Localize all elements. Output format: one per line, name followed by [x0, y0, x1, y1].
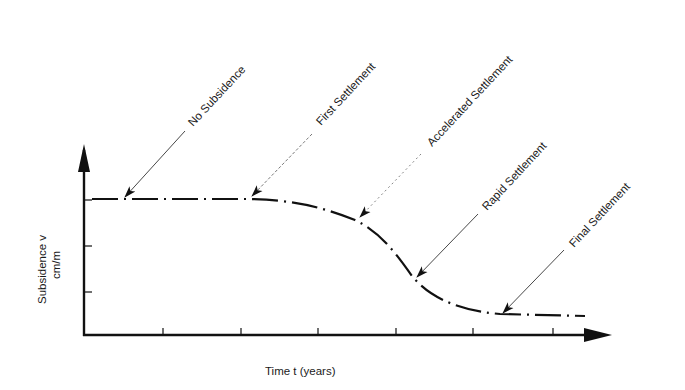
y-axis-unit: cm/m [50, 251, 62, 279]
leader-rapid-settlement [417, 214, 478, 277]
subsidence-chart: No Subsidence First Settlement Accelerat… [0, 0, 685, 390]
leader-no-subsidence [125, 131, 185, 197]
y-axis-arrow-icon [78, 144, 90, 172]
leader-first-settlement [252, 134, 312, 196]
annotation-rapid-settlement: Rapid Settlement [480, 139, 549, 212]
annotation-leaders [125, 131, 564, 313]
annotation-final-settlement: Final Settlement [567, 180, 633, 250]
leader-accelerated-settlement [360, 154, 421, 217]
subsidence-curve [92, 199, 585, 316]
annotation-first-settlement: First Settlement [314, 60, 378, 128]
x-axis [83, 328, 612, 342]
annotation-accelerated-settlement: Accelerated Settlement [425, 53, 515, 149]
leader-final-settlement [503, 250, 564, 313]
y-axis-title: Subsidence v [36, 235, 48, 304]
x-axis-arrow-icon [584, 328, 612, 342]
x-axis-title: Time t (years) [265, 365, 336, 377]
y-axis [78, 144, 92, 336]
annotation-no-subsidence: No Subsidence [186, 63, 248, 128]
